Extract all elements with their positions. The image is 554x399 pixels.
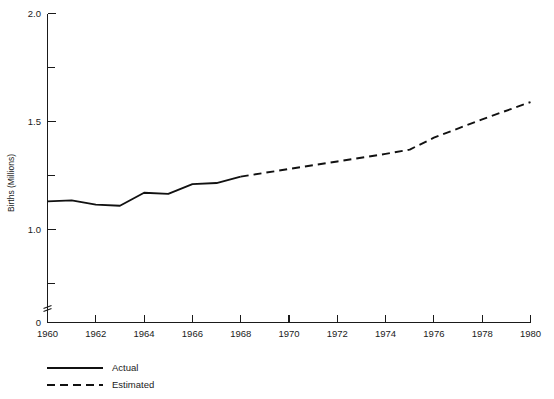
x-tick-label-1970: 1970	[278, 328, 299, 339]
x-tick-label-1966: 1966	[182, 328, 203, 339]
x-tick-label-1960: 1960	[37, 328, 58, 339]
x-tick-label-1968: 1968	[230, 328, 251, 339]
legend-label-estimated: Estimated	[112, 379, 154, 390]
chart-container: 2.0 1.5 1.0 0 Births (Millions) 1960 196…	[0, 0, 554, 399]
x-tick-label-1976: 1976	[423, 328, 444, 339]
series-line-actual	[48, 177, 241, 206]
y-axis-major-ticks	[48, 14, 56, 323]
y-tick-label-1: 1.0	[28, 224, 41, 235]
y-axis-title: Births (Millions)	[6, 154, 16, 212]
y-axis-minor-ticks	[48, 68, 55, 284]
x-tick-label-1972: 1972	[327, 328, 348, 339]
x-tick-label-1964: 1964	[134, 328, 155, 339]
y-tick-label-1-5: 1.5	[28, 116, 41, 127]
x-axis-major-ticks	[48, 315, 531, 323]
x-tick-label-1980: 1980	[520, 328, 541, 339]
y-tick-label-2: 2.0	[28, 8, 41, 19]
x-tick-label-1978: 1978	[472, 328, 493, 339]
births-line-chart: 2.0 1.5 1.0 0 Births (Millions) 1960 196…	[0, 0, 554, 399]
x-tick-label-1962: 1962	[85, 328, 106, 339]
legend-label-actual: Actual	[112, 362, 138, 373]
series-line-estimated	[241, 102, 531, 177]
chart-legend: Actual Estimated	[47, 362, 154, 390]
x-tick-label-1974: 1974	[375, 328, 396, 339]
y-tick-label-0: 0	[36, 317, 41, 328]
